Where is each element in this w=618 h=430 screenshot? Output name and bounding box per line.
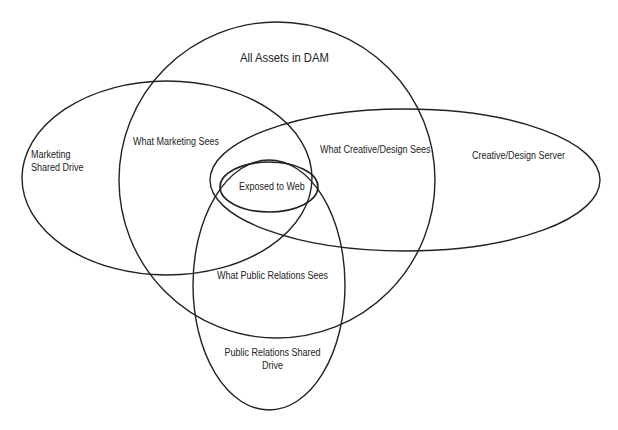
pr-drive-line1: Public Relations Shared [223,346,322,359]
marketing-drive-label: Marketing Shared Drive [31,148,84,174]
marketing-drive-line2: Shared Drive [31,161,84,174]
exposed-to-web-label: Exposed to Web [239,180,305,193]
creative-server-label: Creative/Design Server [472,149,565,162]
pr-drive-line2: Drive [223,359,322,372]
marketing-ellipse [22,81,312,275]
what-pr-sees-label: What Public Relations Sees [217,269,328,282]
what-creative-sees-label: What Creative/Design Sees [320,143,431,156]
venn-diagram: All Assets in DAM Marketing Shared Drive… [0,0,618,430]
what-marketing-sees-label: What Marketing Sees [133,135,219,148]
pr-drive-label: Public Relations Shared Drive [223,346,322,372]
all-assets-label: All Assets in DAM [240,52,329,65]
marketing-drive-line1: Marketing [31,148,84,161]
